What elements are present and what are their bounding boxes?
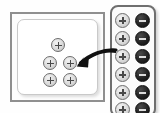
- canvas-plus-button-2[interactable]: [43, 56, 57, 70]
- toolbar-row: [114, 67, 154, 83]
- toolbar-zoom-out-button[interactable]: [135, 49, 150, 64]
- toolbar-zoom-in-button[interactable]: [115, 85, 130, 100]
- toolbar-zoom-out-button[interactable]: [135, 13, 150, 28]
- minus-icon: [136, 68, 149, 81]
- toolbar-zoom-out-button[interactable]: [135, 102, 150, 113]
- toolbar-zoom-in-button[interactable]: [115, 13, 130, 28]
- plus-icon: [64, 74, 76, 86]
- toolbar-zoom-out-button[interactable]: [135, 85, 150, 100]
- toolbar-row: [114, 49, 154, 65]
- minus-icon: [136, 103, 149, 113]
- minus-icon: [136, 32, 149, 45]
- plus-icon: [116, 86, 129, 99]
- toolbar-zoom-in-button[interactable]: [115, 102, 130, 113]
- plus-icon: [44, 57, 56, 69]
- toolbar-row: [114, 102, 154, 113]
- toolbar-row: [114, 31, 154, 47]
- toolbar-zoom-out-button[interactable]: [135, 67, 150, 82]
- canvas-plus-button-1[interactable]: [51, 38, 65, 52]
- minus-icon: [136, 50, 149, 63]
- plus-icon: [116, 14, 129, 27]
- toolbar-zoom-out-button[interactable]: [135, 31, 150, 46]
- canvas-plus-button-5[interactable]: [63, 73, 77, 87]
- minus-icon: [136, 86, 149, 99]
- pointer-arrow: [70, 44, 118, 74]
- plus-icon: [116, 103, 129, 113]
- plus-icon: [52, 39, 64, 51]
- canvas-plus-button-4[interactable]: [43, 73, 57, 87]
- illustration-stage: [0, 0, 160, 113]
- toolbar-row: [114, 13, 154, 29]
- minus-icon: [136, 14, 149, 27]
- toolbar-row: [114, 85, 154, 101]
- plus-icon: [44, 74, 56, 86]
